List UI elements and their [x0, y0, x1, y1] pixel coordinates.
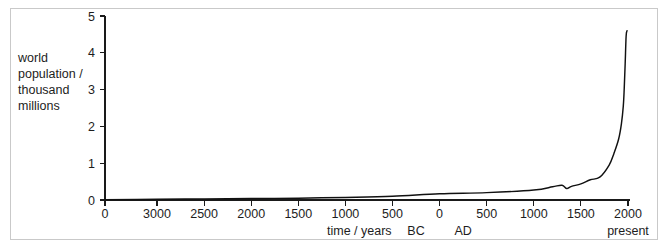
y-axis-label-line-3: thousand — [18, 83, 69, 97]
y-axis-label-line-1: world — [17, 51, 48, 65]
x-tick-label-1: 3000 — [143, 207, 171, 221]
y-tick-label-3: 3 — [88, 83, 95, 97]
x-axis-label: time / years — [327, 224, 392, 238]
world-population-curve — [105, 31, 627, 200]
x-tick-label-6: 500 — [382, 207, 403, 221]
era-label-bc: BC — [407, 224, 424, 238]
y-tick-label-1: 1 — [88, 157, 95, 171]
era-labels: BCAD — [407, 224, 471, 238]
y-tick-label-0: 0 — [88, 194, 95, 208]
x-tick-label-9: 1000 — [520, 207, 548, 221]
y-tick-label-4: 4 — [88, 46, 95, 60]
y-axis-tick-labels: 012345 — [88, 10, 95, 208]
y-axis-label-line-2: population / — [18, 67, 83, 81]
x-axis-tick-labels: 0300025002000150010005000500100015002000 — [102, 207, 642, 221]
x-tick-label-10: 1500 — [567, 207, 595, 221]
x-tick-label-7: 0 — [436, 207, 443, 221]
x-tick-label-8: 500 — [476, 207, 497, 221]
y-tick-label-2: 2 — [88, 120, 95, 134]
x-axis-ticks — [105, 200, 628, 206]
y-axis-ticks — [100, 16, 105, 200]
chart-axes — [105, 16, 630, 200]
era-label-ad: AD — [454, 224, 471, 238]
x-tick-label-3: 2000 — [237, 207, 265, 221]
x-tick-label-4: 1500 — [284, 207, 312, 221]
present-label: present — [607, 224, 649, 238]
y-axis-label-line-4: millions — [18, 99, 60, 113]
population-chart: 012345 030002500200015001000500050010001… — [0, 0, 670, 248]
x-tick-label-2: 2500 — [190, 207, 218, 221]
x-tick-label-5: 1000 — [331, 207, 359, 221]
figure-container: 012345 030002500200015001000500050010001… — [0, 0, 670, 248]
y-tick-label-5: 5 — [88, 10, 95, 24]
x-tick-label-0: 0 — [102, 207, 109, 221]
x-tick-label-11: 2000 — [614, 207, 642, 221]
